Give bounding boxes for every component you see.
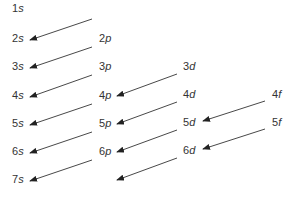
- subshell-letter: f: [278, 88, 281, 100]
- orbital-label-3s: 3s: [12, 60, 24, 72]
- orbital-label-5s: 5s: [12, 117, 24, 129]
- arrow-icon: [30, 104, 92, 125]
- orbital-filling-diagram: 1s2s3s4s5s6s7s2p3p4p5p6p3d4d5d6d4f5f: [0, 0, 296, 198]
- orbital-label-3d: 3d: [183, 60, 195, 72]
- arrow-icon: [30, 160, 92, 181]
- subshell-letter: s: [18, 89, 24, 101]
- orbital-label-2s: 2s: [12, 32, 24, 44]
- orbital-label-7s: 7s: [12, 173, 24, 185]
- orbital-label-4p: 4p: [99, 89, 111, 101]
- orbital-label-5p: 5p: [99, 117, 111, 129]
- arrow-icon: [30, 132, 92, 153]
- subshell-letter: d: [189, 116, 195, 128]
- orbital-label-5f: 5f: [272, 116, 281, 128]
- subshell-letter: s: [18, 2, 24, 14]
- orbital-label-5d: 5d: [183, 116, 195, 128]
- subshell-letter: s: [18, 32, 24, 44]
- orbital-label-4s: 4s: [12, 89, 24, 101]
- arrow-icon: [117, 158, 177, 180]
- subshell-letter: d: [189, 144, 195, 156]
- arrows-layer: [0, 0, 296, 198]
- arrow-icon: [203, 101, 265, 121]
- subshell-letter: s: [18, 60, 24, 72]
- subshell-letter: p: [105, 89, 111, 101]
- subshell-letter: p: [105, 117, 111, 129]
- subshell-letter: s: [18, 145, 24, 157]
- subshell-letter: p: [105, 60, 111, 72]
- orbital-label-6p: 6p: [99, 145, 111, 157]
- subshell-letter: s: [18, 173, 24, 185]
- orbital-label-2p: 2p: [99, 32, 111, 44]
- orbital-label-6d: 6d: [183, 144, 195, 156]
- subshell-letter: s: [18, 117, 24, 129]
- arrow-icon: [117, 74, 177, 96]
- orbital-label-3p: 3p: [99, 60, 111, 72]
- arrow-icon: [203, 129, 265, 149]
- arrow-icon: [30, 47, 92, 68]
- subshell-letter: d: [189, 88, 195, 100]
- orbital-label-1s: 1s: [12, 2, 24, 14]
- subshell-letter: p: [105, 145, 111, 157]
- orbital-label-4f: 4f: [272, 88, 281, 100]
- orbital-label-4d: 4d: [183, 88, 195, 100]
- orbital-label-6s: 6s: [12, 145, 24, 157]
- arrow-icon: [117, 130, 177, 152]
- subshell-letter: p: [105, 32, 111, 44]
- subshell-letter: f: [278, 116, 281, 128]
- arrow-icon: [30, 75, 92, 97]
- arrow-icon: [30, 19, 92, 40]
- subshell-letter: d: [189, 60, 195, 72]
- arrow-icon: [117, 102, 177, 124]
